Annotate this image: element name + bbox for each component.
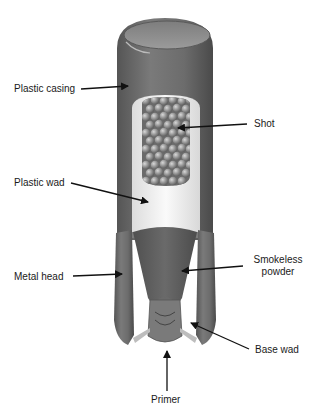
label-smokeless-line2: powder: [250, 266, 306, 278]
label-base-wad: Base wad: [255, 344, 299, 356]
label-metal-head: Metal head: [14, 271, 63, 283]
smokeless-powder: [133, 227, 197, 307]
shot-pellets: [140, 95, 194, 187]
label-plastic-wad: Plastic wad: [14, 177, 65, 189]
label-smokeless-line1: Smokeless: [250, 254, 306, 266]
base-wad: [133, 300, 197, 343]
label-smokeless-powder: Smokeless powder: [250, 254, 306, 278]
label-shot: Shot: [254, 118, 275, 130]
label-primer: Primer: [151, 394, 180, 406]
label-plastic-casing: Plastic casing: [14, 83, 75, 95]
